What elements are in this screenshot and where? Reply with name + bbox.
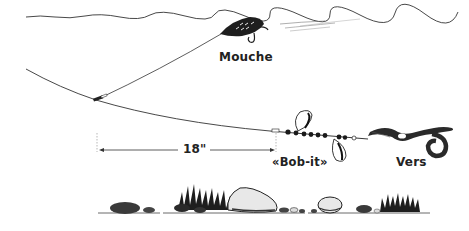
- distance-label: 18": [180, 142, 210, 156]
- worm-icon: [368, 127, 453, 156]
- spinner-rig: [270, 111, 368, 162]
- fishing-rig-diagram: Mouche 18" «Bob-it» Vers: [0, 0, 469, 231]
- swivel-icon: [93, 94, 107, 102]
- diagram-artwork: [0, 0, 469, 231]
- worm-label: Vers: [396, 155, 427, 169]
- main-line: [26, 69, 270, 131]
- dropper-line: [96, 34, 221, 100]
- fly-icon: [220, 17, 268, 42]
- fly-label: Mouche: [219, 50, 273, 64]
- lake-bottom: [98, 184, 430, 214]
- spinner-label: «Bob-it»: [272, 155, 328, 169]
